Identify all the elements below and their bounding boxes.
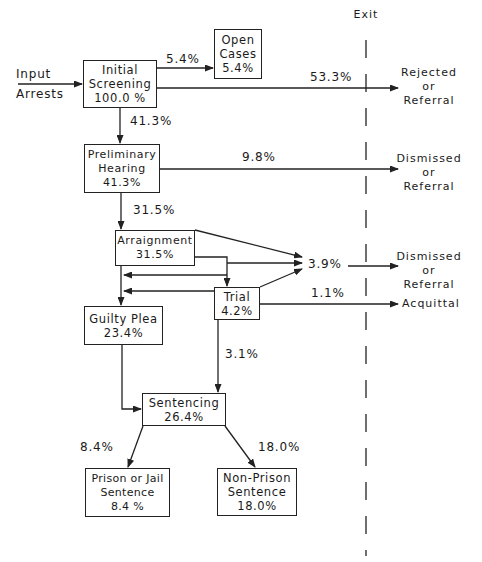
node-label: Trial <box>224 290 251 304</box>
node-non-prison-sentence: Non-Prison Sentence 18.0% <box>217 468 297 516</box>
node-label: Sentencing <box>149 396 220 410</box>
node-label: Cases <box>219 47 256 61</box>
node-label: Sentence <box>228 485 287 499</box>
node-trial: Trial 4.2% <box>214 287 260 320</box>
node-value: 23.4% <box>104 326 144 340</box>
node-preliminary-hearing: Preliminary Hearing 41.3% <box>84 144 160 193</box>
node-label: Sentence <box>101 486 155 500</box>
flow-to-arraignment: 31.5% <box>133 203 175 217</box>
exit-rejected: Rejected or Referral <box>396 66 462 108</box>
node-value: 8.4 % <box>111 500 144 514</box>
flow-to-preliminary: 41.3% <box>130 114 172 128</box>
input-label-line2: Arrests <box>16 87 64 101</box>
node-label: Arraignment <box>117 234 193 248</box>
node-value: 18.0% <box>237 499 277 513</box>
node-label: Guilty Plea <box>89 312 157 326</box>
flow-prelim-dismissed: 9.8% <box>242 150 276 164</box>
flow-arraign-trial-dismissed: 3.9% <box>308 257 342 271</box>
node-prison-sentence: Prison or Jail Sentence 8.4 % <box>85 468 170 517</box>
node-open-cases: Open Cases 5.4% <box>214 29 262 79</box>
exit-dismissed-arraign: Dismissed or Referral <box>396 250 462 292</box>
flow-to-non-prison: 18.0% <box>258 440 300 454</box>
flow-acquittal: 1.1% <box>311 286 345 300</box>
input-label-line1: Input <box>16 67 51 81</box>
node-value: 26.4% <box>164 410 204 424</box>
exit-header: Exit <box>350 8 382 22</box>
node-value: 4.2% <box>221 304 253 318</box>
node-label: Initial <box>102 63 138 77</box>
node-label: Hearing <box>98 162 146 176</box>
node-label: Screening <box>89 77 152 91</box>
exit-acquittal: Acquittal <box>402 297 460 311</box>
flow-to-open-cases: 5.4% <box>166 52 200 66</box>
exit-dismissed-prelim: Dismissed or Referral <box>396 152 462 194</box>
node-value: 41.3% <box>103 176 141 190</box>
node-label: Open <box>221 33 254 47</box>
node-initial-screening: Initial Screening 100.0 % <box>83 60 157 108</box>
flow-trial-to-sentencing: 3.1% <box>225 347 259 361</box>
node-arraignment: Arraignment 31.5% <box>115 230 195 266</box>
node-sentencing: Sentencing 26.4% <box>142 393 226 426</box>
node-value: 5.4% <box>222 61 254 75</box>
node-value: 100.0 % <box>94 91 146 105</box>
flow-rejected: 53.3% <box>310 70 352 84</box>
node-label: Non-Prison <box>223 471 291 485</box>
node-guilty-plea: Guilty Plea 23.4% <box>84 306 163 345</box>
node-label: Prison or Jail <box>92 472 164 486</box>
node-label: Preliminary <box>88 148 157 162</box>
node-value: 31.5% <box>136 248 174 262</box>
flow-to-prison: 8.4% <box>80 440 114 454</box>
